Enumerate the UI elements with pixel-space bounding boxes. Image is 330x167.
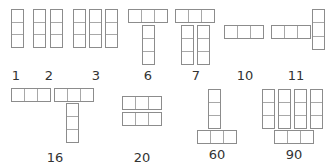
- horizontal-rod: [271, 25, 311, 39]
- rod-cell: [287, 131, 300, 143]
- rod-cell: [67, 104, 78, 116]
- rod-cell: [272, 26, 284, 38]
- rod-cell: [106, 34, 117, 47]
- rod-cell: [263, 102, 274, 115]
- rod-cell: [311, 102, 322, 115]
- rod-cell: [201, 10, 214, 22]
- vertical-rod: [310, 89, 323, 129]
- rod-cell: [311, 90, 322, 102]
- rod-cell: [198, 51, 209, 64]
- rod-cell: [80, 89, 93, 101]
- rod-cell: [141, 10, 154, 22]
- rod-cell: [297, 26, 310, 38]
- rod-cell: [295, 102, 306, 115]
- rod-cell: [148, 97, 161, 109]
- rod-cell: [135, 113, 148, 125]
- horizontal-rod: [11, 88, 51, 102]
- vertical-rod: [50, 9, 63, 48]
- rod-cell: [51, 22, 62, 35]
- rod-cell: [223, 131, 236, 143]
- vertical-rod: [11, 9, 24, 48]
- rod-cell: [210, 131, 223, 143]
- horizontal-rod: [122, 96, 162, 110]
- vertical-rod: [66, 103, 79, 143]
- horizontal-rod: [54, 88, 94, 102]
- rod-cell: [237, 26, 250, 38]
- rod-cell: [143, 26, 154, 38]
- horizontal-rod: [128, 9, 168, 23]
- rod-cell: [295, 115, 306, 128]
- rod-cell: [34, 10, 45, 22]
- rod-cell: [123, 113, 135, 125]
- rod-cell: [311, 115, 322, 128]
- rod-cell: [90, 22, 101, 35]
- vertical-rod: [208, 89, 221, 129]
- rod-arrangement-diagram: 12367101116206090: [0, 0, 330, 167]
- rod-cell: [182, 51, 193, 64]
- rod-cell: [143, 51, 154, 64]
- rod-cell: [34, 22, 45, 35]
- vertical-rod: [89, 9, 102, 48]
- rod-cell: [123, 97, 135, 109]
- group-number-label: 7: [192, 69, 200, 82]
- rod-cell: [182, 26, 193, 38]
- vertical-rod: [142, 25, 155, 65]
- rod-cell: [12, 34, 23, 47]
- rod-cell: [275, 131, 287, 143]
- rod-cell: [225, 26, 237, 38]
- rod-cell: [51, 10, 62, 22]
- rod-cell: [12, 10, 23, 22]
- horizontal-rod: [274, 130, 314, 144]
- horizontal-rod: [122, 112, 162, 126]
- rod-cell: [209, 102, 220, 115]
- vertical-rod: [294, 89, 307, 129]
- group-number-label: 3: [92, 69, 100, 82]
- vertical-rod: [312, 9, 325, 50]
- rod-cell: [106, 10, 117, 22]
- rod-cell: [279, 102, 290, 115]
- rod-cell: [176, 10, 188, 22]
- rod-cell: [300, 131, 313, 143]
- rod-cell: [90, 34, 101, 47]
- rod-cell: [188, 10, 201, 22]
- group-number-label: 60: [209, 148, 226, 161]
- rod-cell: [279, 90, 290, 102]
- rod-cell: [106, 22, 117, 35]
- group-number-label: 11: [288, 69, 305, 82]
- rod-cell: [209, 115, 220, 128]
- rod-cell: [74, 34, 85, 47]
- group-number-label: 2: [45, 69, 53, 82]
- rod-cell: [129, 10, 141, 22]
- rod-cell: [154, 10, 167, 22]
- group-number-label: 90: [286, 148, 303, 161]
- group-number-label: 6: [144, 69, 152, 82]
- rod-cell: [90, 10, 101, 22]
- rod-cell: [67, 129, 78, 142]
- rod-cell: [34, 34, 45, 47]
- rod-cell: [135, 97, 148, 109]
- rod-cell: [198, 26, 209, 38]
- rod-cell: [313, 36, 324, 49]
- vertical-rod: [278, 89, 291, 129]
- vertical-rod: [262, 89, 275, 129]
- group-number-label: 16: [47, 151, 64, 164]
- rod-cell: [148, 113, 161, 125]
- rod-cell: [250, 26, 263, 38]
- rod-cell: [263, 115, 274, 128]
- rod-cell: [143, 38, 154, 51]
- rod-cell: [284, 26, 297, 38]
- rod-cell: [209, 90, 220, 102]
- rod-cell: [295, 90, 306, 102]
- rod-cell: [67, 89, 80, 101]
- group-number-label: 10: [237, 69, 254, 82]
- horizontal-rod: [197, 130, 237, 144]
- rod-cell: [51, 34, 62, 47]
- rod-cell: [74, 22, 85, 35]
- rod-cell: [74, 10, 85, 22]
- rod-cell: [12, 89, 24, 101]
- rod-cell: [37, 89, 50, 101]
- vertical-rod: [33, 9, 46, 48]
- rod-cell: [198, 38, 209, 51]
- vertical-rod: [181, 25, 194, 65]
- rod-cell: [279, 115, 290, 128]
